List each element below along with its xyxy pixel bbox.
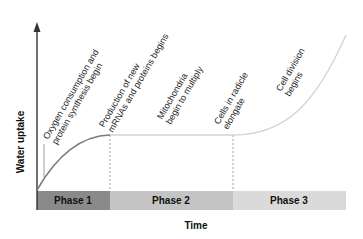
phase-1-label: Phase 1: [54, 195, 92, 206]
svg-text:Oxygen consumption and: Oxygen consumption and: [41, 48, 101, 141]
y-axis-label: Water uptake: [15, 110, 26, 173]
y-axis-arrow-icon: [34, 22, 41, 32]
annotation-radicle-cells: Cells in radicle elongate: [212, 70, 259, 131]
x-axis-label: Time: [184, 220, 208, 231]
annotation-oxygen-consumption: Oxygen consumption and protein synthesis…: [41, 48, 109, 146]
uptake-curve-phase-1: [37, 135, 110, 190]
water-uptake-diagram: Water uptake Phase 1 Phase 2 Phase 3 Tim…: [0, 0, 363, 239]
annotation-mitochondria: Mitochondria begin to multiply: [155, 59, 205, 126]
annotation-cell-division: Cell division begins: [274, 46, 315, 98]
phase-3-label: Phase 3: [270, 195, 308, 206]
phase-2-label: Phase 2: [152, 195, 190, 206]
